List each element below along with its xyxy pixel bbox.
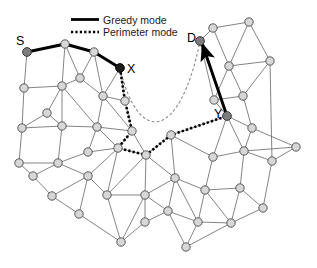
graph-edge [58, 126, 62, 163]
graph-node [54, 159, 62, 167]
graph-edge [65, 44, 80, 78]
graph-node [128, 127, 136, 135]
graph-node [268, 157, 276, 165]
graph-node [99, 92, 107, 100]
graph-node [61, 40, 69, 48]
graph-node [171, 174, 179, 182]
graph-node-perimeter-entry [116, 64, 125, 73]
graph-node-destination [196, 37, 205, 46]
graph-edge [244, 147, 296, 151]
graph-edge [52, 176, 88, 196]
graph-edge [205, 190, 231, 223]
graph-edges [19, 22, 296, 247]
graph-node [292, 143, 300, 151]
graph-edge [62, 126, 97, 127]
graph-edge [213, 116, 227, 157]
graph-node-labels: SXDY [16, 31, 223, 121]
graph-edge [227, 116, 244, 151]
graph-edge [79, 176, 88, 214]
graph-edge [243, 61, 270, 96]
graph-edge [22, 88, 24, 128]
graph-edge [168, 178, 175, 211]
node-label-d: D [187, 31, 196, 45]
graph-node [164, 207, 172, 215]
graph-node [240, 147, 248, 155]
graph-edge [24, 52, 27, 88]
graph-edge [107, 148, 118, 195]
perimeter-path-polyline [118, 68, 227, 155]
graph-node [248, 124, 256, 132]
graph-edge [252, 128, 296, 147]
perimeter-mode-path [118, 68, 227, 155]
graph-node [84, 148, 92, 156]
graph-node [142, 151, 150, 159]
graph-edge [175, 178, 205, 190]
graph-edge [240, 151, 244, 188]
graph-node [194, 218, 202, 226]
graph-node [58, 82, 66, 90]
graph-node [114, 144, 122, 152]
graph-node [209, 153, 217, 161]
graph-edge [205, 188, 240, 190]
graph-edge [62, 86, 97, 127]
graph-node-perimeter-exit [223, 112, 232, 121]
x-to-d-reference-line [120, 41, 200, 122]
graph-node [227, 219, 235, 227]
graph-node [167, 131, 175, 139]
graph-edge [52, 196, 79, 214]
graph-edge [22, 126, 62, 128]
graph-edge [107, 155, 146, 195]
graph-node [117, 238, 125, 246]
graph-edge [198, 222, 231, 223]
graph-edge [243, 96, 252, 128]
node-label-x: X [127, 62, 136, 76]
graph-edge [121, 195, 145, 242]
graph-edge [171, 135, 175, 178]
graph-edge [97, 96, 103, 127]
graph-node [20, 84, 28, 92]
graph-node [141, 218, 149, 226]
graph-edge [229, 66, 243, 96]
graph-edge [229, 61, 270, 66]
graph-node [15, 159, 23, 167]
graph-node [245, 18, 253, 26]
graph-edge [145, 155, 146, 195]
x-to-d-line [120, 41, 200, 122]
graph-node [18, 124, 26, 132]
graph-edge [19, 128, 22, 163]
graph-node [225, 62, 233, 70]
graph-node [209, 24, 217, 32]
graph-edge [58, 163, 88, 176]
graph-edge [229, 22, 249, 66]
graph-node [48, 192, 56, 200]
graph-node [141, 191, 149, 199]
graph-node [43, 109, 51, 117]
graph-node [58, 122, 66, 130]
graph-edge [270, 61, 272, 161]
greedy-path-source-segment [27, 44, 120, 68]
graph-node [103, 191, 111, 199]
graph-node [29, 172, 37, 180]
graph-edge [213, 151, 244, 157]
graph-edge [62, 44, 65, 86]
graph-node [266, 57, 274, 65]
graph-node [90, 48, 98, 56]
graph-node-source [23, 48, 32, 57]
node-label-y: Y [214, 107, 223, 121]
graph-node [84, 172, 92, 180]
graph-edge [263, 161, 272, 208]
graph-edge [231, 188, 240, 223]
graph-node [201, 186, 209, 194]
graph-node [210, 96, 218, 104]
graph-edge [186, 223, 231, 247]
legend: Greedy mode Perimeter mode [71, 14, 178, 39]
graph-edge [58, 152, 88, 163]
graph-edge [249, 22, 270, 61]
graph-node [236, 184, 244, 192]
graph-edge [213, 22, 249, 28]
graph-node [93, 123, 101, 131]
graph-edge [79, 214, 121, 242]
graph-edge [103, 68, 120, 96]
legend-label-greedy: Greedy mode [103, 14, 167, 26]
network-graph-svg: SXDY Greedy mode Perimeter mode [0, 0, 317, 268]
